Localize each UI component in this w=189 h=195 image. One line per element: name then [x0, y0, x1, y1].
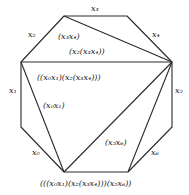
edge-label-x1: x₁ — [9, 87, 17, 95]
edge-label-x0: x₀ — [32, 149, 40, 157]
edge-label-x3: x₃ — [91, 5, 99, 13]
region-label-x2x3x4: (x₂(x₃x₄)) — [69, 48, 105, 56]
edge-label-x5: x₅ — [175, 87, 183, 95]
octagon-outline — [21, 16, 172, 172]
region-label-big: ((x₀x₁)(x₂(x₃x₄))) — [37, 74, 101, 82]
diagonal — [128, 62, 172, 172]
edge-label-x2: x₂ — [28, 31, 36, 39]
region-label-x5x6: (x₅x₆) — [105, 139, 127, 147]
edge-label-x4: x₄ — [152, 31, 160, 39]
region-label-x0x1: (x₀x₁) — [43, 102, 65, 110]
root-label: (((x₀x₁)(x₂(x₃x₄)))(x₅x₆)) — [40, 180, 131, 188]
edge-label-x6: x₆ — [151, 149, 159, 157]
region-label-x3x4: (x₃x₄) — [58, 33, 80, 41]
